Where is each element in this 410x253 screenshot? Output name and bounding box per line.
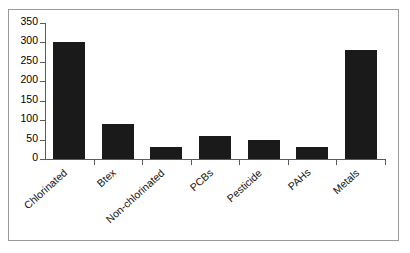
x-axis-tick-mark [94,160,95,165]
y-axis-tick-mark [40,23,45,24]
y-axis-tick-label: 50 [26,133,38,144]
x-axis-tick-mark [191,160,192,165]
x-axis-line [45,159,386,160]
bar-pahs [296,147,328,159]
y-axis-tick-mark [40,101,45,102]
y-axis-tick-label: 100 [20,113,38,124]
y-axis-tick-label: 0 [32,152,38,163]
y-axis-tick-label: 350 [20,16,38,27]
bar-btex [102,124,134,159]
y-axis-line [45,23,46,160]
y-axis-tick-mark [40,62,45,63]
x-axis-label-pcbs: PCBs [188,167,215,193]
x-axis-label-btex: Btex [95,167,118,189]
bar-non-chlorinated [150,147,182,159]
y-axis-tick-mark [40,159,45,160]
figure: 050100150200250300350 ChlorinatedBtexNon… [0,0,410,253]
y-axis-tick-label: 200 [20,74,38,85]
y-axis-tick-mark [40,42,45,43]
y-axis-tick-mark [40,81,45,82]
y-axis-tick-mark [40,120,45,121]
x-axis-label-pahs: PAHs [286,167,313,193]
bar-pcbs [199,136,231,159]
x-axis-label-pesticide: Pesticide [225,167,264,204]
bar-chlorinated [53,42,85,159]
y-axis-tick-mark [40,140,45,141]
bar-metals [345,50,377,159]
x-axis-tick-mark [336,160,337,165]
y-axis-tick-label: 250 [20,55,38,66]
x-axis-label-chlorinated: Chlorinated [22,167,69,211]
x-axis-tick-mark [385,160,386,165]
x-axis-label-metals: Metals [331,167,361,196]
x-axis-tick-mark [288,160,289,165]
bar-pesticide [248,140,280,159]
x-axis-tick-mark [142,160,143,165]
y-axis-tick-label: 300 [20,35,38,46]
x-axis-tick-mark [239,160,240,165]
bar-chart: 050100150200250300350 ChlorinatedBtexNon… [8,9,399,241]
y-axis-tick-label: 150 [20,94,38,105]
